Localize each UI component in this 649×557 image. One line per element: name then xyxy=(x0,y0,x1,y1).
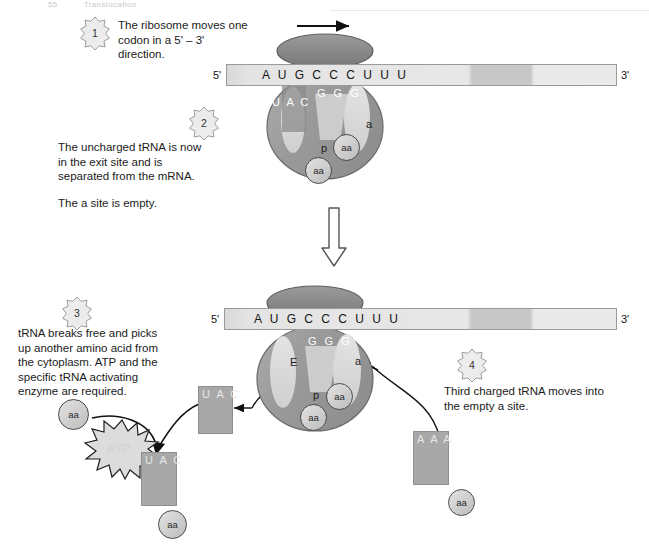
ribosome-top-exit-anticodon: U A C xyxy=(272,96,310,108)
recharged-trna-anticodon: U A C xyxy=(142,453,176,466)
ribosome-top-p-site-label: p xyxy=(321,142,327,154)
step-text-4: Third charged tRNA moves into the empty … xyxy=(444,384,644,413)
released-trna: U A C xyxy=(198,386,233,434)
mrna-bottom-five-prime: 5' xyxy=(211,308,219,330)
ribosome-bottom-e-site-label: E xyxy=(290,356,297,368)
mrna-top-three-prime: 3' xyxy=(621,64,629,86)
ribosome-bottom-a-site-label: a xyxy=(355,355,361,367)
ribosome-top-aa-chain: aa xyxy=(305,157,332,184)
ribosome-bottom-p-site-label: p xyxy=(313,389,319,401)
step-text-2-note: The a site is empty. xyxy=(58,196,238,211)
ribosome-bottom-codon: G G G xyxy=(308,335,352,347)
ribosome-top-codon: G G G xyxy=(317,87,361,99)
mrna-top-five-prime: 5' xyxy=(213,64,221,86)
ribosome-bottom-aa-p: aa xyxy=(326,383,353,410)
mrna-bottom-sequence: A U G C C C U U U xyxy=(254,308,401,330)
page-header-title: Translocation xyxy=(84,0,137,9)
header-rule xyxy=(330,10,649,11)
panel-flow-arrow xyxy=(322,208,346,266)
mrna-top-sequence: A U G C C C U U U xyxy=(262,64,409,86)
ribosome-top-aa-p: aa xyxy=(333,134,360,161)
ribosome-top xyxy=(262,32,412,201)
step-text-1: The ribosome moves one codon in a 5' – 3… xyxy=(118,18,278,62)
step-text-3: tRNA breaks free and picks up another am… xyxy=(18,326,198,399)
incoming-trna-aa: aa xyxy=(448,489,475,516)
released-trna-anticodon: U A C xyxy=(199,387,232,400)
step-badge-1: 1 xyxy=(78,16,112,50)
atp-label: ATP xyxy=(107,442,131,456)
ribosome-bottom-aa-chain: aa xyxy=(300,404,327,431)
step-badge-2: 2 xyxy=(187,106,221,140)
step-badge-4-number: 4 xyxy=(455,348,489,382)
step-badge-3-number: 3 xyxy=(60,296,94,330)
recharged-trna-aa: aa xyxy=(158,510,187,539)
ribosome-top-a-site-label: a xyxy=(366,118,372,130)
incoming-trna-anticodon: A A A xyxy=(414,432,448,445)
page-header: 55Translocation xyxy=(48,0,137,9)
step-badge-4: 4 xyxy=(455,348,489,382)
step-badge-1-number: 1 xyxy=(78,16,112,50)
diagram-canvas: 55Translocation 1 The ribosome moves one… xyxy=(0,0,649,557)
step-badge-3: 3 xyxy=(60,296,94,330)
incoming-trna: A A A xyxy=(413,431,449,485)
step-badge-2-number: 2 xyxy=(187,106,221,140)
page-header-number: 55 xyxy=(48,0,58,9)
step-text-2: The uncharged tRNA is now in the exit si… xyxy=(58,140,238,184)
mrna-bottom-three-prime: 3' xyxy=(621,308,629,330)
recharged-trna: U A C xyxy=(141,452,177,506)
